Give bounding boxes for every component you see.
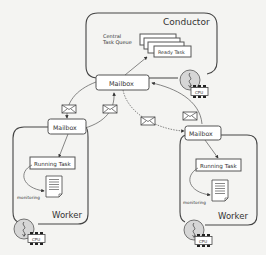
ready-task-queue: Ready Task [140, 34, 191, 57]
worker-left: Mailbox Running Task monitoring Worker C… [13, 119, 88, 245]
worker-left-mailbox-label: Mailbox [53, 124, 77, 131]
deliver-arrow [59, 134, 68, 157]
envelope-icon [103, 105, 117, 113]
worker-right-cpu-label: CPU [199, 239, 207, 244]
ready-task-label: Ready Task [158, 50, 185, 55]
process-circle-icon [180, 70, 200, 90]
worker-right: Mailbox Running Task monitoring Worker C… [180, 126, 257, 247]
worker-left-title: Worker [52, 210, 82, 220]
deliver-arrow [205, 140, 218, 158]
envelope-icon [183, 112, 197, 120]
queue-label-line2: Task Queue [102, 39, 132, 45]
worker-left-monitoring-label: monitoring [17, 195, 40, 200]
conductor-cpu-label: CPU [195, 90, 203, 95]
architecture-diagram: Conductor Central Task Queue Ready Task … [0, 0, 266, 255]
worker-right-title: Worker [218, 211, 248, 221]
worker-right-mailbox-label: Mailbox [189, 130, 213, 137]
conductor-panel: Conductor Central Task Queue Ready Task … [86, 13, 217, 98]
envelope-icon [62, 105, 76, 113]
worker-left-cpu-label: CPU [32, 237, 40, 242]
document-icon [212, 180, 228, 201]
worker-right-running-task-label: Running Task [200, 163, 238, 170]
conductor-title: Conductor [163, 17, 210, 27]
envelope-icon [141, 117, 155, 125]
dispatch-arrow [125, 57, 147, 75]
worker-left-running-task-label: Running Task [34, 161, 72, 168]
worker-right-monitoring-label: monitoring [183, 200, 206, 205]
document-icon [46, 176, 62, 197]
conductor-mailbox-label: Mailbox [109, 80, 134, 88]
monitoring-arrow [190, 168, 210, 195]
